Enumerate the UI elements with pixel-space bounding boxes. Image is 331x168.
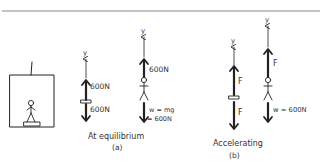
caption-b-title: Accelerating (213, 139, 263, 148)
caption-a-title: At equilibrium (88, 132, 144, 141)
fbd-a-person: y 600N w = mg = 600N (140, 27, 174, 123)
scale-plate (229, 96, 239, 99)
person-figure (27, 100, 35, 122)
weight-label: w = 600N (273, 106, 307, 114)
weight-label-line2: = 600N (147, 115, 172, 123)
up-force-label: 600N (149, 65, 169, 74)
scale-platform (24, 122, 40, 126)
fbd-b-scale: y F F (229, 37, 243, 129)
down-force-label: 600N (90, 105, 110, 114)
fbd-a-scale: y 600N 600N (81, 49, 110, 121)
person-figure (140, 77, 148, 100)
up-force-label: 600N (90, 82, 110, 91)
axis-label-y: y (231, 37, 235, 45)
axis-label-y: y (141, 27, 145, 35)
axis-label-y: y (83, 49, 87, 57)
down-force-label: F (238, 108, 243, 117)
caption-a-letter: (a) (112, 143, 123, 152)
elevator-scene (10, 62, 54, 127)
elevator-cable (31, 62, 32, 75)
weight-label-line1: w = mg (149, 106, 174, 114)
fbd-b-person: y F w = 600N (264, 16, 307, 122)
axis-label-y: y (265, 16, 269, 24)
up-force-label: F (238, 77, 243, 86)
scale-plate (81, 100, 91, 103)
free-body-diagram: y 600N 600N y 600N w = mg = 600N At equi… (0, 0, 331, 168)
up-force-label: F (273, 59, 278, 68)
caption-b-letter: (b) (229, 151, 240, 160)
person-figure (264, 77, 272, 100)
